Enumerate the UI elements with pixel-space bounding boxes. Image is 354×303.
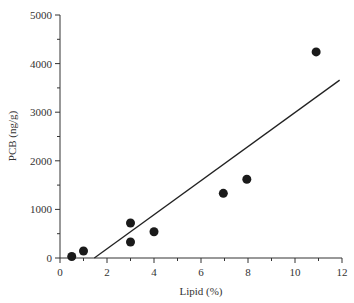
scatter-chart: 010002000300040005000024681012 Lipid (%)…: [0, 0, 354, 303]
data-point: [242, 175, 251, 184]
x-axis-label: Lipid (%): [179, 285, 222, 298]
x-tick-label: 8: [245, 266, 251, 278]
regression-line: [94, 80, 339, 258]
y-tick-label: 0: [47, 252, 53, 264]
data-point: [67, 252, 76, 261]
y-tick-label: 5000: [30, 9, 53, 21]
x-tick-label: 4: [151, 266, 157, 278]
data-point: [126, 237, 135, 246]
y-tick-label: 3000: [30, 106, 53, 118]
data-points: [67, 47, 320, 261]
data-point: [219, 189, 228, 198]
y-axis-label: PCB (ng/g): [6, 110, 19, 161]
x-tick-label: 6: [198, 266, 204, 278]
data-point: [150, 227, 159, 236]
x-tick-label: 10: [290, 266, 302, 278]
data-point: [312, 47, 321, 56]
axes: 010002000300040005000024681012: [30, 9, 348, 278]
x-tick-label: 12: [337, 266, 348, 278]
x-tick-label: 2: [104, 266, 110, 278]
y-tick-label: 2000: [30, 155, 53, 167]
y-tick-label: 1000: [30, 203, 53, 215]
data-point: [79, 246, 88, 255]
y-tick-label: 4000: [30, 58, 53, 70]
x-tick-label: 0: [57, 266, 63, 278]
data-point: [126, 219, 135, 228]
